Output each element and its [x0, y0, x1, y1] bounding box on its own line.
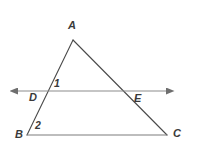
geometry-figure: A B C D E 1 2 [0, 0, 197, 153]
geometry-canvas [0, 0, 197, 153]
triangle-side-ab [27, 40, 73, 135]
angle-label-2: 2 [35, 120, 41, 131]
point-label-e: E [134, 93, 141, 104]
triangle-side-ac [73, 40, 167, 135]
vertex-label-a: A [68, 20, 76, 31]
vertex-label-c: C [173, 128, 181, 139]
point-label-d: D [29, 92, 37, 103]
vertex-label-b: B [15, 129, 23, 140]
angle-label-1: 1 [54, 78, 60, 89]
